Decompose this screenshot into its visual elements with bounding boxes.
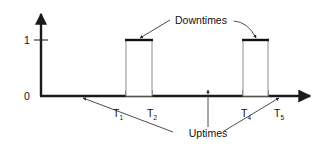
x-axis-label-t1-sub: 1 [119,114,123,121]
x-axis-label-t4: T4 [241,107,251,121]
y-axis: 1 0 [24,14,48,102]
x-axis [40,90,310,96]
uptimes-label: Uptimes [189,127,228,139]
downtimes-callout: Downtimes [140,14,256,38]
y-axis-label-zero: 0 [24,90,30,102]
downtime-bar-1 [125,40,153,96]
y-axis-label-one: 1 [24,34,30,46]
uptimes-leader-right [224,98,279,131]
downtimes-leader-right [234,21,256,38]
figure-root: 1 0 Downtimes T1 T2 [0,0,325,145]
x-axis-label-t2: T2 [147,107,157,121]
downtimes-label: Downtimes [175,14,227,26]
x-axis-label-t1: T1 [113,107,123,121]
uptimes-leader-left [83,98,173,132]
downtime-bar-2 [242,40,269,96]
downtime-bar-2-body [243,40,268,96]
x-axis-label-t5-sub: 5 [280,114,284,121]
downtimes-leader-left [140,20,170,38]
x-axis-label-t2-sub: 2 [153,114,157,121]
uptime-downtime-diagram: 1 0 Downtimes T1 T2 [0,0,325,145]
downtime-bar-1-body [126,40,152,96]
x-axis-label-t5: T5 [274,107,284,121]
